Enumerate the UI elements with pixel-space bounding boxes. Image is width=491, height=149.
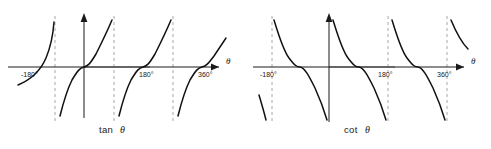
x-axis-label: θ xyxy=(226,56,231,66)
cot-branch-2 xyxy=(333,20,386,120)
x-tick-label-neg180: -180° xyxy=(260,71,277,78)
cot-branch-1 xyxy=(274,20,327,120)
x-axis-arrowhead xyxy=(456,64,464,71)
panel-caption-variable: θ xyxy=(365,124,370,135)
x-tick-label-360: 360° xyxy=(198,71,213,78)
chart-panel-tan: -180° 180° 360° θ tan θ xyxy=(0,0,246,149)
cot-branch-0 xyxy=(259,95,266,120)
x-axis-label: θ xyxy=(471,56,476,66)
cot-branch-4 xyxy=(451,20,468,49)
panel-caption-function: tan xyxy=(99,124,113,135)
chart-panel-cot: -180° 180° 360° θ cot θ xyxy=(245,0,491,149)
y-axis-arrowhead xyxy=(326,13,333,22)
x-tick-label-neg180: -180° xyxy=(21,71,38,78)
tan-branch-3 xyxy=(119,20,171,116)
x-tick-label-180: 180° xyxy=(378,71,393,78)
cot-branch-3 xyxy=(392,20,445,120)
x-tick-label-180: 180° xyxy=(139,71,154,78)
x-tick-label-360: 360° xyxy=(437,71,452,78)
panel-caption-variable: θ xyxy=(120,124,125,135)
trig-graphs-figure: -180° 180° 360° θ tan θ xyxy=(0,0,491,149)
y-axis-arrowhead xyxy=(81,13,88,22)
x-axis-arrowhead xyxy=(211,64,219,71)
panel-caption-function: cot xyxy=(344,124,358,135)
tan-branch-2 xyxy=(60,20,112,116)
